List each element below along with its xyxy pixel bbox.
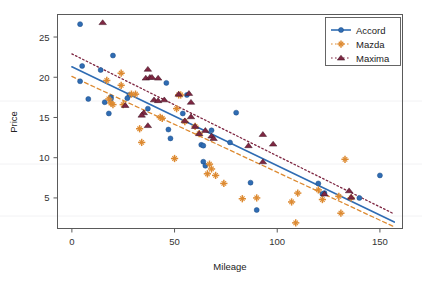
data-point (187, 99, 195, 104)
legend-label: Accord (356, 25, 386, 36)
x-axis-title: Mileage (213, 261, 246, 272)
x-axis-ticks: 050100150 (69, 229, 388, 247)
data-point (248, 180, 253, 185)
data-point (316, 181, 321, 186)
data-point (161, 97, 169, 102)
y-tick-label: 15 (39, 112, 50, 123)
data-point (347, 194, 355, 199)
data-point (234, 110, 239, 115)
data-point (164, 80, 169, 85)
data-point (98, 68, 103, 73)
data-point (319, 196, 326, 203)
scatter-chart: 050100150 510152025 Mileage Price Accord… (0, 0, 422, 282)
y-tick-label: 5 (44, 192, 49, 203)
series-maxima (99, 20, 355, 199)
legend-marker-circle (339, 28, 344, 33)
trendline-accord (72, 67, 394, 222)
data-point (99, 20, 107, 25)
data-point (357, 195, 362, 200)
data-point (228, 140, 233, 145)
data-point (118, 70, 125, 77)
data-point (86, 96, 91, 101)
x-tick-label: 100 (269, 236, 285, 247)
trendline-mazda (72, 76, 394, 226)
data-point (294, 189, 301, 196)
x-tick-label: 150 (372, 236, 388, 247)
data-point (154, 75, 162, 80)
data-point (253, 194, 260, 201)
y-tick-label: 10 (39, 152, 50, 163)
legend-label: Maxima (356, 53, 390, 64)
data-point (78, 22, 83, 27)
data-point (136, 125, 143, 132)
data-point (110, 53, 115, 58)
data-point (78, 79, 83, 84)
data-point (341, 156, 348, 163)
data-point (80, 63, 85, 68)
y-tick-label: 25 (39, 32, 50, 43)
data-point (173, 105, 180, 112)
data-point (171, 155, 178, 162)
data-point (239, 195, 246, 202)
series-mazda (103, 70, 355, 227)
data-point (254, 207, 259, 212)
data-point (345, 188, 353, 193)
data-point (144, 66, 152, 71)
y-tick-label: 20 (39, 72, 50, 83)
x-tick-label: 0 (69, 236, 74, 247)
data-point (259, 132, 267, 137)
data-point (180, 111, 185, 116)
data-point (125, 96, 130, 101)
data-point (166, 127, 171, 132)
data-point (144, 123, 152, 128)
data-point (201, 143, 206, 148)
y-axis-ticks: 510152025 (39, 32, 58, 204)
data-point (118, 82, 125, 89)
data-point (269, 141, 277, 146)
data-point (377, 173, 382, 178)
data-point (138, 139, 145, 146)
data-point (106, 111, 111, 116)
trendline-maxima (72, 54, 394, 214)
data-point (288, 198, 295, 205)
data-point (209, 128, 214, 133)
data-point (168, 136, 173, 141)
data-point (292, 219, 299, 226)
legend-label: Mazda (356, 39, 385, 50)
x-tick-label: 50 (169, 236, 180, 247)
data-point (220, 180, 227, 187)
data-point (212, 172, 219, 179)
plot-canvas: 050100150 510152025 Mileage Price Accord… (0, 0, 422, 282)
trendlines-group (72, 54, 394, 227)
y-axis-title: Price (8, 111, 19, 133)
data-point (145, 106, 150, 111)
legend[interactable]: AccordMazdaMaxima (326, 18, 401, 66)
data-point (102, 100, 107, 105)
